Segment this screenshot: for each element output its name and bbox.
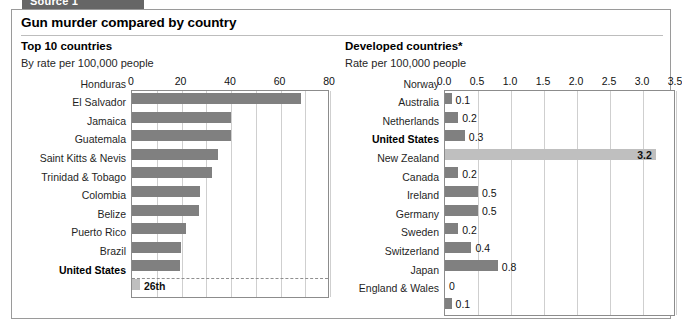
category-label: Germany <box>345 209 439 220</box>
bar-value-label: 26th <box>144 281 166 292</box>
category-label: Japan <box>345 265 439 276</box>
right-bar-chart: 0.00.51.01.52.02.53.03.5 0.10.20.33.20.2… <box>345 75 665 316</box>
gridline <box>330 91 331 297</box>
bar-value-label: 0 <box>449 281 455 292</box>
bar-value-label: 0.3 <box>469 132 484 143</box>
x-tick-label: 60 <box>274 75 286 87</box>
bar-value-label: 0.2 <box>462 225 477 236</box>
gridline <box>544 91 545 315</box>
x-tick-label: 2.0 <box>569 75 584 87</box>
bar-value-label: 0.4 <box>475 243 490 254</box>
category-label: England & Wales <box>345 283 439 294</box>
gridline <box>676 91 677 315</box>
right-plot-area: 0.10.20.33.20.20.50.50.20.40.800.1 <box>444 90 675 316</box>
chart-panel: Gun murder compared by country Top 10 co… <box>11 9 671 319</box>
bar-value-label: 0.1 <box>456 95 471 106</box>
category-label: Netherlands <box>345 116 439 127</box>
category-label: United States <box>21 265 126 276</box>
category-label: Saint Kitts & Nevis <box>21 153 126 164</box>
x-tick-label: 40 <box>224 75 236 87</box>
bar <box>132 205 199 216</box>
x-tick-label: 0.5 <box>470 75 485 87</box>
bar <box>132 149 218 160</box>
bar <box>445 149 656 160</box>
category-label: Canada <box>345 172 439 183</box>
gridline <box>281 91 282 297</box>
category-label: Brazil <box>21 246 126 257</box>
bar <box>445 298 452 309</box>
bar <box>132 242 181 253</box>
category-label: Belize <box>21 209 126 220</box>
x-tick-label: 80 <box>323 75 335 87</box>
x-tick-label: 2.5 <box>602 75 617 87</box>
gridline <box>610 91 611 315</box>
left-chart-block: Top 10 countries By rate per 100,000 peo… <box>21 40 341 298</box>
gridline <box>511 91 512 315</box>
bar <box>445 223 458 234</box>
bar <box>445 112 458 123</box>
left-chart-subtitle: Top 10 countries <box>21 40 341 52</box>
page-title: Gun murder compared by country <box>21 15 236 30</box>
right-chart-block: Developed countries* Rate per 100,000 pe… <box>345 40 665 316</box>
left-bar-chart: 020406080 26th HondurasEl SalvadorJamaic… <box>21 75 341 298</box>
category-label: Jamaica <box>21 116 126 127</box>
bar <box>445 260 498 271</box>
right-chart-unit: Rate per 100,000 people <box>345 57 665 69</box>
category-label: Ireland <box>345 190 439 201</box>
bar <box>132 279 140 290</box>
bar <box>132 130 231 141</box>
bar <box>445 167 458 178</box>
category-label: Guatemala <box>21 134 126 145</box>
bar-value-label: 0.2 <box>462 169 477 180</box>
category-label: Sweden <box>345 227 439 238</box>
gridline <box>643 91 644 315</box>
bar <box>132 223 186 234</box>
bar-value-label: 0.5 <box>482 206 497 217</box>
bar <box>445 130 465 141</box>
bar <box>132 93 301 104</box>
category-label: El Salvador <box>21 97 126 108</box>
bar <box>445 93 452 104</box>
x-tick-label: 1.5 <box>536 75 551 87</box>
title-divider <box>21 35 663 36</box>
screenshot-root: Source 1 Gun murder compared by country … <box>0 0 682 330</box>
gridline <box>256 91 257 297</box>
x-tick-label: 3.5 <box>668 75 682 87</box>
bar-value-label: 0.2 <box>462 113 477 124</box>
bar-value-label: 0.5 <box>482 188 497 199</box>
bar-value-label: 3.2 <box>637 150 652 161</box>
category-label: Australia <box>345 97 439 108</box>
gridline <box>305 91 306 297</box>
category-label: Trinidad & Tobago <box>21 172 126 183</box>
left-plot-area: 26th <box>131 90 329 298</box>
x-tick-label: 0 <box>128 75 134 87</box>
category-label: Switzerland <box>345 246 439 257</box>
category-label: Colombia <box>21 190 126 201</box>
right-chart-subtitle: Developed countries* <box>345 40 665 52</box>
gridline <box>577 91 578 315</box>
separator-line <box>132 278 328 279</box>
bar-value-label: 0.1 <box>456 299 471 310</box>
bar <box>132 167 212 178</box>
bar <box>132 260 180 271</box>
x-tick-label: 20 <box>175 75 187 87</box>
gridline <box>478 91 479 315</box>
left-chart-unit: By rate per 100,000 people <box>21 57 341 69</box>
category-label: United States <box>345 134 439 145</box>
bar <box>445 242 471 253</box>
source-tab-label: Source 1 <box>30 0 78 7</box>
category-label: New Zealand <box>345 153 439 164</box>
x-tick-label: 3.0 <box>635 75 650 87</box>
x-tick-label: 1.0 <box>503 75 518 87</box>
bar <box>445 205 478 216</box>
bar-value-label: 0.8 <box>502 262 517 273</box>
category-label: Norway <box>345 79 439 90</box>
gridline <box>231 91 232 297</box>
bar <box>132 112 231 123</box>
bar <box>445 186 478 197</box>
category-label: Honduras <box>21 79 126 90</box>
bar <box>132 186 200 197</box>
category-label: Puerto Rico <box>21 227 126 238</box>
